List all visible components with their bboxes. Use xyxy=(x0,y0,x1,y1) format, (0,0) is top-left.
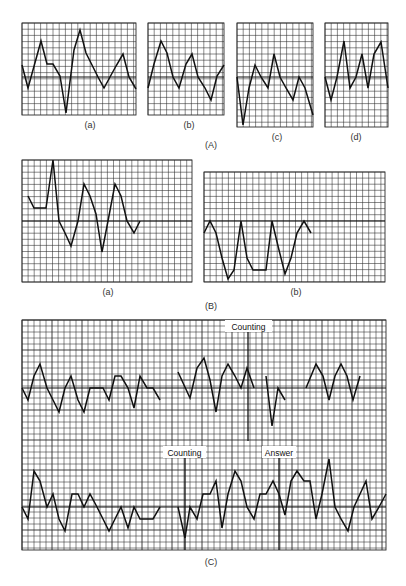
waveform-trace xyxy=(266,376,285,426)
section-c-label: (C) xyxy=(205,557,218,567)
section-a-panels: (a)(b)(c)(d) xyxy=(22,23,388,142)
panel-label: (b) xyxy=(184,120,195,130)
figure: (a)(b)(c)(d) (a)(b) CountingCountingAnsw… xyxy=(0,0,406,586)
grid xyxy=(22,320,386,550)
panel-b-a: (a) xyxy=(22,160,192,297)
panel-label: (a) xyxy=(103,287,114,297)
panel-a-a: (a) xyxy=(22,23,136,130)
marker-label: Counting xyxy=(167,448,201,458)
waveform-trace xyxy=(178,459,386,538)
waveform-trace xyxy=(22,30,136,113)
panel-label: (c) xyxy=(272,132,283,142)
grid xyxy=(204,172,385,282)
waveform-trace xyxy=(237,54,313,125)
section-c-panel: CountingCountingAnswer xyxy=(22,320,386,550)
section-b-label: (B) xyxy=(205,301,217,311)
panel-label: (d) xyxy=(351,132,362,142)
marker-label: Answer xyxy=(265,448,294,458)
waveform-trace xyxy=(204,221,311,279)
panel-label: (b) xyxy=(291,287,302,297)
marker-label: Counting xyxy=(231,322,265,332)
panel-a-c: (c) xyxy=(237,23,313,142)
section-b-panels: (a)(b) xyxy=(22,160,385,297)
waveform-trace xyxy=(22,471,160,531)
grid xyxy=(22,23,136,115)
panel-label: (a) xyxy=(85,120,96,130)
panel-a-b: (b) xyxy=(148,23,224,130)
marker-counting: Counting xyxy=(163,446,206,550)
figure-canvas: (a)(b)(c)(d) (a)(b) CountingCountingAnsw… xyxy=(0,0,406,586)
grid xyxy=(237,23,313,127)
panel-a-d: (d) xyxy=(325,23,388,142)
grid xyxy=(148,23,224,115)
section-a-label: (A) xyxy=(205,140,217,150)
waveform-trace xyxy=(28,160,140,252)
panel-b-b: (b) xyxy=(204,172,385,297)
marker-answer: Answer xyxy=(262,446,296,550)
